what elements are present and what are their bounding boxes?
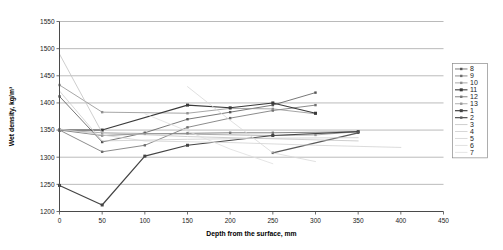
legend-label-5: 5 <box>470 135 474 142</box>
series-marker-1 <box>101 203 104 206</box>
legend-label-10: 10 <box>470 79 478 86</box>
x-tick-label-450: 450 <box>438 217 449 224</box>
series-marker-8 <box>229 111 231 113</box>
legend-label-2: 2 <box>470 114 474 121</box>
y-axis-title: Wet density, kg/m³ <box>8 86 16 146</box>
plot-area-background <box>60 22 444 212</box>
series-marker-12 <box>229 132 231 134</box>
legend-swatch-marker-10 <box>460 82 462 84</box>
series-marker-10 <box>101 111 103 113</box>
legend-label-13: 13 <box>470 100 478 107</box>
series-marker-9 <box>314 104 316 106</box>
x-tick-label-400: 400 <box>395 217 406 224</box>
series-marker-9 <box>229 117 231 119</box>
y-tick-label-1450: 1450 <box>40 72 55 79</box>
legend-swatch-marker-1 <box>460 109 463 112</box>
legend-label-6: 6 <box>470 142 474 149</box>
series-marker-9 <box>144 144 146 146</box>
y-tick-label-1250: 1250 <box>40 181 55 188</box>
series-marker-1 <box>143 155 146 158</box>
series-marker-8 <box>314 91 316 93</box>
y-tick-label-1500: 1500 <box>40 45 55 52</box>
series-marker-2 <box>357 132 359 134</box>
legend-swatch-marker-12 <box>460 96 462 98</box>
legend-swatch-marker-2 <box>460 116 462 118</box>
legend-swatch-marker-8 <box>460 68 462 70</box>
series-marker-10 <box>186 112 188 114</box>
x-tick-label-100: 100 <box>139 217 150 224</box>
legend-swatch-marker-13 <box>460 103 462 105</box>
legend-swatch-marker-9 <box>460 75 462 77</box>
legend-label-3: 3 <box>470 121 474 128</box>
legend-label-7: 7 <box>470 149 474 156</box>
y-tick-label-1400: 1400 <box>40 99 55 106</box>
line-chart: 1200125013001350140014501500155005010015… <box>0 0 503 250</box>
series-marker-9 <box>101 151 103 153</box>
x-tick-label-0: 0 <box>58 217 62 224</box>
x-tick-label-350: 350 <box>353 217 364 224</box>
y-tick-label-1550: 1550 <box>40 18 55 25</box>
y-tick-label-1350: 1350 <box>40 126 55 133</box>
legend-label-9: 9 <box>470 72 474 79</box>
series-marker-11 <box>186 104 189 107</box>
y-tick-label-1300: 1300 <box>40 154 55 161</box>
legend-swatch-marker-11 <box>460 88 463 91</box>
legend-label-4: 4 <box>470 128 474 135</box>
series-marker-11 <box>229 106 232 109</box>
series-marker-1 <box>271 134 274 137</box>
x-tick-label-150: 150 <box>182 217 193 224</box>
legend-label-8: 8 <box>470 65 474 72</box>
legend-label-11: 11 <box>470 86 477 93</box>
series-marker-12 <box>272 132 274 134</box>
y-tick-label-1200: 1200 <box>40 208 55 215</box>
series-marker-1 <box>186 144 189 147</box>
x-tick-label-250: 250 <box>267 217 278 224</box>
series-marker-11 <box>271 101 274 104</box>
x-tick-label-300: 300 <box>310 217 321 224</box>
legend-label-1: 1 <box>470 107 474 114</box>
x-tick-label-200: 200 <box>225 217 236 224</box>
series-marker-8 <box>186 118 188 120</box>
series-marker-9 <box>186 126 188 128</box>
x-tick-label-50: 50 <box>99 217 107 224</box>
chart-container: 1200125013001350140014501500155005010015… <box>0 0 503 250</box>
series-marker-11 <box>314 112 317 115</box>
series-marker-10 <box>272 108 274 110</box>
legend-label-12: 12 <box>470 93 478 100</box>
x-axis-title: Depth from the surface, mm <box>206 230 296 238</box>
